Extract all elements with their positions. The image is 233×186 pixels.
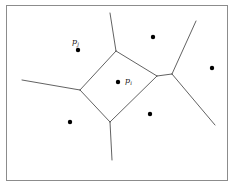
voronoi-edge bbox=[22, 80, 80, 90]
site-label-subscript: i bbox=[130, 80, 132, 86]
voronoi-edge bbox=[172, 21, 196, 74]
diagram-frame bbox=[6, 5, 227, 180]
voronoi-site-point bbox=[148, 112, 152, 116]
voronoi-edge bbox=[80, 90, 110, 122]
voronoi-edge bbox=[116, 51, 157, 76]
voronoi-site-point bbox=[116, 80, 120, 84]
site-label-p-i: pi bbox=[125, 77, 132, 85]
site-label-subscript: j bbox=[77, 41, 79, 47]
voronoi-site-point bbox=[68, 120, 72, 124]
voronoi-edge bbox=[157, 74, 172, 76]
voronoi-edge bbox=[80, 51, 116, 90]
voronoi-edge bbox=[110, 13, 116, 51]
voronoi-site-point bbox=[76, 48, 80, 52]
voronoi-figure: pjpi bbox=[0, 0, 233, 186]
site-label-p-j: pj bbox=[72, 38, 79, 46]
voronoi-edge bbox=[110, 122, 112, 160]
voronoi-canvas bbox=[0, 0, 233, 186]
voronoi-site-point bbox=[210, 66, 214, 70]
voronoi-edge bbox=[172, 74, 215, 125]
voronoi-site-point bbox=[151, 35, 155, 39]
voronoi-edges bbox=[22, 13, 215, 160]
